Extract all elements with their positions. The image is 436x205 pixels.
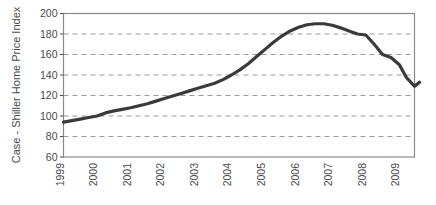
x-tick-label-2000: 2000 — [87, 163, 99, 187]
x-tick-label-2004: 2004 — [221, 163, 233, 187]
x-tick-label-2008: 2008 — [356, 163, 368, 187]
x-tick-label-2003: 2003 — [188, 163, 200, 187]
y-axis-label: Case - Shiller Home Price Index — [10, 6, 22, 163]
y-tick-label-160: 160 — [40, 48, 58, 60]
y-tick-label-80: 80 — [46, 130, 58, 142]
y-tick-label-120: 120 — [40, 89, 58, 101]
x-tick-label-2002: 2002 — [154, 163, 166, 187]
y-tick-label-100: 100 — [40, 110, 58, 122]
x-tick-label-2005: 2005 — [255, 163, 267, 187]
y-tick-label-180: 180 — [40, 28, 58, 40]
x-tick-label-2009: 2009 — [389, 163, 401, 187]
x-tick-label-2001: 2001 — [121, 163, 133, 187]
chart-figure: 6080100120140160180200 19992000200120022… — [0, 0, 436, 205]
y-tick-label-140: 140 — [40, 69, 58, 81]
x-tick-label-2007: 2007 — [322, 163, 334, 187]
case-shiller-line-chart: 6080100120140160180200 19992000200120022… — [0, 0, 436, 205]
x-tick-label-2006: 2006 — [289, 163, 301, 187]
y-tick-label-200: 200 — [40, 7, 58, 19]
y-tick-label-60: 60 — [46, 151, 58, 163]
x-tick-label-1999: 1999 — [54, 163, 66, 187]
